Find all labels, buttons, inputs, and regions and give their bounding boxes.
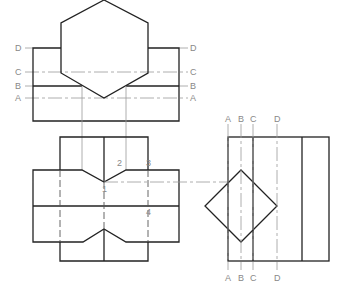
label-b-left: B — [15, 81, 21, 91]
label-a-top: A — [225, 114, 231, 124]
label-d-left: D — [15, 43, 22, 53]
label-b-right: B — [190, 81, 196, 91]
point-label-2: 2 — [117, 158, 122, 168]
label-a-left: A — [15, 93, 21, 103]
top-view-box — [33, 48, 179, 121]
orthographic-drawing: D C B A D C B A 2 3 1 4 A B — [0, 0, 348, 298]
label-c-right: C — [190, 67, 197, 77]
label-d-bottom: D — [274, 273, 281, 283]
label-b-top: B — [238, 114, 244, 124]
label-d-right: D — [190, 43, 197, 53]
label-d-top: D — [274, 114, 281, 124]
label-c-left: C — [15, 67, 22, 77]
front-view: 2 3 1 4 — [33, 137, 228, 261]
point-label-1: 1 — [102, 184, 107, 194]
point-label-4: 4 — [146, 207, 151, 217]
label-c-bottom: C — [250, 273, 257, 283]
label-c-top: C — [250, 114, 257, 124]
top-view: D C B A D C B A — [15, 0, 197, 121]
label-b-bottom: B — [238, 273, 244, 283]
hexagon-prism — [61, 0, 148, 98]
label-a-bottom: A — [225, 273, 231, 283]
side-view: A B C D A B C D — [205, 114, 329, 283]
label-a-right: A — [190, 93, 196, 103]
point-label-3: 3 — [146, 158, 151, 168]
side-rect — [228, 137, 329, 261]
